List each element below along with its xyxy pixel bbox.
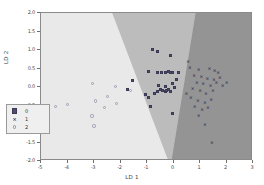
data-point-class-0	[151, 48, 154, 51]
x-axis-tick-label: -2	[110, 164, 130, 170]
x-axis-tick-mark	[93, 160, 94, 163]
legend-label: 2	[19, 124, 28, 130]
x-axis-tick-label: 2	[216, 164, 236, 170]
x-axis-tick-mark	[146, 160, 147, 163]
data-point-class-0	[164, 85, 167, 88]
y-axis-tick-label: -2.0	[9, 157, 35, 163]
y-axis-tick-mark	[37, 86, 40, 87]
data-point-class-0	[131, 79, 134, 82]
data-point-class-1: ×	[197, 114, 201, 118]
data-point-class-1: ×	[225, 81, 229, 85]
decision-region-layer	[41, 13, 251, 159]
x-axis-tick-label: -4	[57, 164, 77, 170]
data-point-class-0	[171, 82, 174, 85]
y-axis-tick-label: -1.5	[9, 139, 35, 145]
data-point-class-0	[147, 70, 150, 73]
data-point-class-1: ×	[191, 87, 195, 91]
x-axis-tick-mark	[40, 160, 41, 163]
data-point-class-2	[92, 124, 95, 127]
plot-area: ××××××××××××××××××××××××××××××××	[40, 12, 252, 160]
data-point-class-1: ×	[197, 68, 201, 72]
y-axis-tick-mark	[37, 31, 40, 32]
data-point-class-1: ×	[221, 84, 225, 88]
data-point-class-0	[147, 96, 150, 99]
y-axis-tick-mark	[37, 12, 40, 13]
data-point-class-1: ×	[203, 123, 207, 127]
data-point-class-0	[177, 71, 180, 74]
x-axis-tick-mark	[67, 160, 68, 163]
x-axis-tick-label: -3	[83, 164, 103, 170]
legend-item: × 1	[10, 115, 46, 123]
data-point-class-2	[94, 99, 97, 102]
data-point-class-1: ×	[216, 71, 220, 75]
data-point-class-0	[157, 84, 160, 87]
x-axis-tick-mark	[120, 160, 121, 163]
data-point-class-1: ×	[204, 92, 208, 96]
data-point-class-0	[156, 50, 159, 53]
y-axis-tick-mark	[37, 142, 40, 143]
x-axis-tick-mark	[252, 160, 253, 163]
data-point-class-0	[149, 105, 152, 108]
data-point-class-1: ×	[200, 108, 204, 112]
data-point-class-1: ×	[192, 74, 196, 78]
x-axis-tick-label: 1	[189, 164, 209, 170]
data-point-class-0	[169, 90, 172, 93]
data-point-class-1: ×	[184, 92, 188, 96]
data-point-class-1: ×	[209, 84, 213, 88]
data-point-class-0	[156, 71, 159, 74]
y-axis-tick-label: 1.0	[9, 46, 35, 52]
legend-item: 2	[10, 123, 46, 131]
legend: 0 × 1 2	[6, 104, 50, 134]
legend-label: 0	[19, 108, 28, 114]
data-point-class-1: ×	[210, 141, 214, 145]
data-point-class-1: ×	[211, 89, 215, 93]
data-point-class-1: ×	[209, 98, 213, 102]
data-point-class-0	[169, 54, 172, 57]
legend-circle-icon	[10, 125, 19, 129]
x-axis-tick-mark	[226, 160, 227, 163]
y-axis-tick-mark	[37, 68, 40, 69]
data-point-class-1: ×	[218, 76, 222, 80]
data-point-class-1: ×	[193, 105, 197, 109]
x-axis-tick-label: -5	[30, 164, 50, 170]
data-point-class-1: ×	[195, 81, 199, 85]
data-point-class-1: ×	[196, 99, 200, 103]
x-axis-tick-label: 0	[163, 164, 183, 170]
data-point-class-1: ×	[203, 101, 207, 105]
data-point-class-1: ×	[207, 67, 211, 71]
data-point-class-1: ×	[214, 81, 218, 85]
data-point-class-1: ×	[206, 106, 210, 110]
data-point-class-1: ×	[199, 75, 203, 79]
x-axis-label: LD 1	[0, 174, 264, 180]
data-point-class-1: ×	[188, 66, 192, 70]
data-point-class-1: ×	[201, 82, 205, 86]
data-point-class-0	[171, 112, 174, 115]
data-point-class-0	[171, 71, 174, 74]
y-axis-tick-mark	[37, 49, 40, 50]
data-point-class-1: ×	[205, 77, 209, 81]
x-axis-tick-mark	[173, 160, 174, 163]
x-axis-tick-label: 3	[242, 164, 262, 170]
data-point-class-1: ×	[189, 96, 193, 100]
data-point-class-1: ×	[198, 89, 202, 93]
y-axis-label: LD 2	[3, 51, 9, 64]
x-axis-tick-label: -1	[136, 164, 156, 170]
legend-item: 0	[10, 107, 46, 115]
x-axis-tick-mark	[199, 160, 200, 163]
chart-root: ×××××××××××××××××××××××××××××××× 2.01.51…	[0, 0, 264, 185]
data-point-class-0	[173, 86, 176, 89]
y-axis-tick-label: 2.0	[9, 9, 35, 15]
y-axis-tick-label: 0.5	[9, 65, 35, 71]
data-point-class-2	[90, 114, 93, 117]
y-axis-tick-label: 1.5	[9, 28, 35, 34]
data-point-class-0	[175, 78, 178, 81]
legend-x-icon: ×	[10, 117, 19, 122]
y-axis-tick-label: 0.0	[9, 83, 35, 89]
legend-label: 1	[19, 116, 28, 122]
data-point-class-1: ×	[186, 60, 190, 64]
legend-square-icon	[10, 108, 19, 113]
